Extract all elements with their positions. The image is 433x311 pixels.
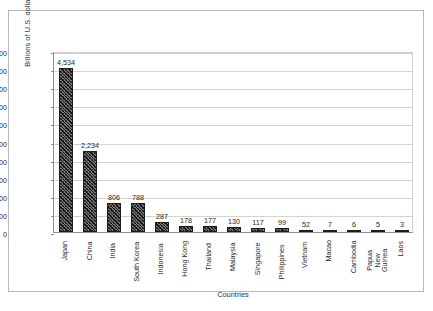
bar-item[interactable]: 178 (179, 217, 193, 232)
bar-item[interactable]: 2,234 (83, 142, 97, 232)
x-tick-label: Vietnam (301, 241, 309, 267)
bar-item[interactable]: 806 (107, 194, 121, 232)
bar-item[interactable]: 6 (347, 221, 361, 232)
x-tick-label: Cambodia (349, 240, 357, 273)
bar-rect[interactable] (371, 230, 385, 232)
bar-rect[interactable] (227, 227, 241, 232)
bar-rect[interactable] (347, 230, 361, 232)
y-axis-title: Billions of U.S. dollars (23, 0, 32, 85)
bar-value-label: 177 (204, 217, 216, 225)
y-tick-mark (51, 53, 54, 54)
y-tick-mark (51, 89, 54, 90)
y-tick-label: 3,000 (0, 121, 7, 130)
x-tick: India (101, 235, 125, 254)
x-tick: Thailand (197, 235, 221, 260)
x-tick-label: Thailand (205, 243, 213, 271)
bar-item[interactable]: 3 (395, 221, 409, 232)
y-tick-label: 4,500 (0, 67, 7, 76)
bar-value-label: 5 (376, 221, 380, 229)
bar-value-label: 6 (352, 221, 356, 229)
x-tick: Cambodia (341, 235, 365, 260)
y-tick-label: 2,500 (0, 139, 7, 148)
x-tick-label: Philippines (277, 245, 285, 280)
x-tick-label: Laos (397, 241, 405, 257)
x-tick: Hong Kong (173, 235, 197, 262)
bar-item[interactable]: 7 (323, 221, 337, 232)
bar-value-label: 52 (302, 221, 310, 229)
bar-item[interactable]: 130 (227, 218, 241, 232)
x-tick: South Korea (125, 235, 149, 266)
y-tick-label: 3,500 (0, 103, 7, 112)
bar-value-label: 287 (156, 213, 168, 221)
y-tick-label: 1,500 (0, 175, 7, 184)
bar-value-label: 2,234 (81, 142, 99, 150)
bar-item[interactable]: 4,534 (59, 59, 73, 232)
x-tick: Malaysia (221, 235, 245, 260)
bar-item[interactable]: 5 (371, 221, 385, 232)
x-tick: Philippines (269, 235, 293, 266)
x-tick: Macao (317, 235, 341, 254)
bar-item[interactable]: 788 (131, 194, 145, 232)
bar-rect[interactable] (131, 203, 145, 232)
x-tick-label: Indonesia (157, 243, 165, 274)
bar-rect[interactable] (299, 230, 313, 232)
bar-value-label: 130 (228, 218, 240, 226)
bar-value-label: 7 (328, 221, 332, 229)
x-tick-label: Papua New Guinea (366, 248, 389, 272)
bar-item[interactable]: 117 (251, 219, 265, 232)
bar-series: 4,5342,23480678828717817713011799527653 (54, 53, 412, 232)
x-tick: Papua New Guinea (365, 235, 389, 272)
bar-rect[interactable] (395, 230, 409, 232)
bar-value-label: 788 (132, 194, 144, 202)
y-tick-label: 1,000 (0, 193, 7, 202)
bar-rect[interactable] (179, 226, 193, 232)
bar-item[interactable]: 287 (155, 213, 169, 232)
x-tick-label: Japan (61, 241, 69, 261)
x-tick: Laos (389, 235, 413, 252)
x-tick-label: Singapore (253, 242, 261, 275)
y-tick-mark (51, 198, 54, 199)
y-tick-label: 2,000 (0, 157, 7, 166)
bar-value-label: 99 (278, 219, 286, 227)
x-tick-label: Macao (325, 240, 333, 262)
x-axis-title: Countries (53, 290, 413, 299)
bar-rect[interactable] (275, 228, 289, 232)
bar-item[interactable]: 99 (275, 219, 289, 232)
x-tick-label: India (109, 243, 117, 259)
y-tick-label: 4,000 (0, 85, 7, 94)
bar-item[interactable]: 177 (203, 217, 217, 232)
x-tick: China (77, 235, 101, 254)
y-tick-label: 5,000 (0, 49, 7, 58)
bar-value-label: 178 (180, 217, 192, 225)
bar-value-label: 3 (400, 221, 404, 229)
x-tick: Indonesia (149, 235, 173, 262)
y-tick-mark (51, 71, 54, 72)
x-tick-label: Malaysia (229, 242, 237, 270)
bar-rect[interactable] (83, 151, 97, 232)
bar-value-label: 117 (252, 219, 263, 227)
chart-figure-frame: Billions of U.S. dollars 4,5342,23480678… (8, 10, 424, 292)
plot-area: 4,5342,23480678828717817713011799527653 … (53, 52, 413, 233)
bar-value-label: 4,534 (57, 59, 75, 67)
bar-rect[interactable] (323, 230, 337, 232)
x-axis-tick-labels: JapanChinaIndiaSouth KoreaIndonesiaHong … (53, 235, 413, 285)
bar-rect[interactable] (155, 222, 169, 232)
x-tick: Vietnam (293, 235, 317, 258)
y-tick-label: 0 (0, 230, 7, 239)
bar-rect[interactable] (251, 228, 265, 232)
bar-rect[interactable] (59, 68, 73, 232)
y-tick-label: 500 (0, 211, 7, 220)
y-tick-mark (51, 144, 54, 145)
bar-rect[interactable] (107, 203, 121, 232)
x-tick: Singapore (245, 235, 269, 262)
x-tick-label: South Korea (133, 242, 141, 282)
y-tick-mark (51, 107, 54, 108)
y-tick-mark (51, 162, 54, 163)
bar-item[interactable]: 52 (299, 221, 313, 232)
x-tick-label: Hong Kong (181, 240, 189, 276)
bar-value-label: 806 (108, 194, 120, 202)
y-tick-mark (51, 125, 54, 126)
x-tick: Japan (53, 235, 77, 254)
bar-rect[interactable] (203, 226, 217, 232)
x-tick-label: China (85, 241, 93, 260)
